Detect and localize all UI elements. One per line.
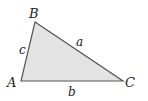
- triangle-abc: [21, 22, 123, 81]
- vertex-label-b: B: [28, 6, 39, 21]
- side-label-a: a: [76, 35, 83, 49]
- side-label-b: b: [68, 85, 76, 99]
- side-label-c: c: [19, 43, 26, 57]
- vertex-label-c: C: [125, 75, 135, 90]
- vertex-label-a: A: [6, 75, 16, 90]
- triangle-diagram: B A C a b c: [0, 0, 148, 101]
